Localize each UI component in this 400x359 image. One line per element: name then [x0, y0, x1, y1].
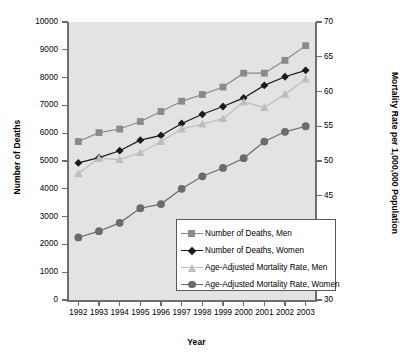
- data-point-marker: [116, 126, 123, 133]
- data-point-marker: [261, 70, 268, 77]
- y-tick-mark-left: [62, 49, 68, 50]
- y-tick-label-left: 7000: [18, 100, 58, 109]
- x-tick-label: 2003: [286, 308, 326, 317]
- data-point-marker: [260, 81, 268, 89]
- data-point-marker: [260, 138, 268, 146]
- series-line: [78, 79, 305, 174]
- y-tick-mark-left: [62, 105, 68, 106]
- data-point-marker: [199, 91, 206, 98]
- legend-item-label: Number of Deaths, Women: [205, 246, 304, 255]
- data-series: [74, 75, 310, 177]
- x-axis-title: Year: [0, 337, 393, 347]
- legend-item-label: Age-Adjusted Mortality Rate, Women: [205, 280, 340, 289]
- data-point-marker: [282, 57, 289, 64]
- data-point-marker: [281, 90, 289, 98]
- data-point-marker: [219, 164, 227, 172]
- y-tick-mark-right: [316, 195, 322, 196]
- legend-circle-icon: [188, 281, 196, 289]
- y-tick-mark-left: [62, 133, 68, 134]
- y-tick-mark-left: [62, 188, 68, 189]
- axis-spine-bottom: [67, 300, 317, 302]
- data-point-marker: [240, 70, 247, 77]
- data-point-marker: [219, 103, 227, 111]
- data-series: [75, 42, 309, 145]
- y-tick-mark-right: [316, 126, 322, 127]
- y-tick-label-left: 1000: [18, 267, 58, 276]
- data-point-marker: [198, 172, 206, 180]
- data-point-marker: [75, 138, 82, 145]
- legend-item[interactable]: Age-Adjusted Mortality Rate, Women: [181, 276, 331, 293]
- series-line: [78, 70, 305, 163]
- legend-item-label: Age-Adjusted Mortality Rate, Men: [205, 263, 327, 272]
- data-point-marker: [281, 73, 289, 81]
- y-tick-mark-left: [62, 160, 68, 161]
- y-tick-label-right: 50: [324, 156, 364, 165]
- y-tick-label-right: 55: [324, 121, 364, 130]
- data-point-marker: [281, 128, 289, 136]
- data-point-marker: [95, 227, 103, 235]
- data-point-marker: [302, 42, 309, 49]
- data-point-marker: [198, 110, 206, 118]
- y-tick-mark-left: [62, 77, 68, 78]
- x-tick-mark: [181, 301, 182, 306]
- x-tick-mark: [222, 301, 223, 306]
- y-axis-right-title: Mortality Rate per 1,000,000 Population: [390, 53, 400, 253]
- y-tick-label-left: 0: [18, 295, 58, 304]
- y-tick-mark-right: [316, 299, 322, 300]
- y-tick-mark-left: [62, 244, 68, 245]
- data-point-marker: [158, 108, 165, 115]
- x-tick-mark: [264, 301, 265, 306]
- y-tick-label-right: 65: [324, 52, 364, 61]
- x-tick-mark: [243, 301, 244, 306]
- y-tick-mark-right: [316, 91, 322, 92]
- x-tick-mark: [78, 301, 79, 306]
- legend-item-label: Number of Deaths, Men: [205, 229, 292, 238]
- legend-marker: [181, 228, 203, 239]
- legend-marker: [181, 279, 203, 290]
- data-point-marker: [240, 154, 248, 162]
- y-tick-label-right: 60: [324, 87, 364, 96]
- data-point-marker: [116, 219, 124, 227]
- legend-item[interactable]: Number of Deaths, Women: [181, 242, 331, 259]
- y-tick-label-right: 70: [324, 17, 364, 26]
- x-tick-mark: [202, 301, 203, 306]
- x-tick-mark: [98, 301, 99, 306]
- legend-marker: [181, 245, 203, 256]
- data-series: [74, 66, 309, 166]
- data-point-marker: [178, 98, 185, 105]
- data-point-marker: [74, 234, 82, 242]
- y-tick-label-left: 6000: [18, 128, 58, 137]
- y-tick-mark-right: [316, 160, 322, 161]
- legend-square-icon: [188, 230, 195, 237]
- data-point-marker: [116, 147, 124, 155]
- data-point-marker: [220, 84, 227, 91]
- x-tick-mark: [284, 301, 285, 306]
- data-point-marker: [157, 137, 165, 145]
- y-tick-label-left: 8000: [18, 73, 58, 82]
- y-tick-label-left: 5000: [18, 156, 58, 165]
- data-point-marker: [157, 200, 165, 208]
- y-tick-label-right: 45: [324, 191, 364, 200]
- data-point-marker: [136, 136, 144, 144]
- data-point-marker: [302, 66, 310, 74]
- x-tick-mark: [305, 301, 306, 306]
- legend-diamond-icon: [188, 246, 196, 254]
- y-tick-label-left: 9000: [18, 45, 58, 54]
- x-tick-mark: [119, 301, 120, 306]
- y-tick-label-left: 3000: [18, 212, 58, 221]
- y-tick-label-left: 4000: [18, 184, 58, 193]
- chart-legend: Number of Deaths, MenNumber of Deaths, W…: [176, 219, 336, 291]
- y-tick-mark-left: [62, 299, 68, 300]
- legend-item[interactable]: Number of Deaths, Men: [181, 225, 331, 242]
- data-point-marker: [301, 75, 309, 83]
- y-tick-label-left: 10000: [18, 17, 58, 26]
- data-point-marker: [96, 129, 103, 136]
- legend-marker: [181, 262, 203, 273]
- y-tick-mark-left: [62, 216, 68, 217]
- legend-item[interactable]: Age-Adjusted Mortality Rate, Men: [181, 259, 331, 276]
- x-tick-mark: [140, 301, 141, 306]
- y-tick-label-right: 30: [324, 295, 364, 304]
- data-point-marker: [178, 185, 186, 193]
- y-tick-mark-right: [316, 56, 322, 57]
